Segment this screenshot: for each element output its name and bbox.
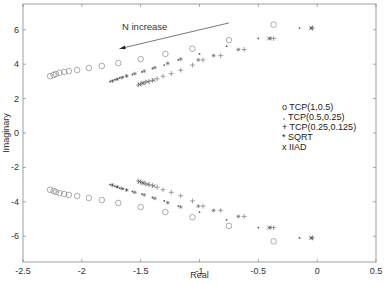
y-tick-label: 6 bbox=[14, 25, 19, 35]
x-tick-label: -2.5 bbox=[15, 266, 31, 276]
x-tick-label: -1.5 bbox=[133, 266, 149, 276]
annotation-text: N increase bbox=[122, 21, 167, 32]
y-tick-label: 0 bbox=[14, 128, 19, 138]
x-tick-label: 0 bbox=[315, 266, 320, 276]
n-increase-annotation: N increase bbox=[119, 21, 228, 49]
plot-frame bbox=[23, 4, 376, 262]
series-tcp-1-0-5- bbox=[47, 22, 276, 244]
axes: -2.5-2-1.5-1-0.500.5-6-4-20246 bbox=[11, 4, 382, 276]
y-tick-label: -6 bbox=[11, 231, 19, 241]
legend-item: TCP(0.5,0.25) bbox=[288, 112, 345, 122]
series-layer bbox=[47, 22, 315, 244]
x-tick-label: -0.5 bbox=[251, 266, 267, 276]
legend-item: * SQRT bbox=[282, 132, 313, 142]
pole-plot: -2.5-2-1.5-1-0.500.5-6-4-20246 N increas… bbox=[0, 0, 384, 284]
legend: o TCP(1,0.5)TCP(0.5,0.25)+ TCP(0.25,0.12… bbox=[282, 102, 356, 152]
legend-item: x IIAD bbox=[282, 142, 307, 152]
x-tick-label: 0.5 bbox=[370, 266, 383, 276]
x-axis-label: Real bbox=[190, 270, 209, 280]
legend-item: o TCP(1,0.5) bbox=[282, 102, 333, 112]
x-tick-label: -2 bbox=[78, 266, 86, 276]
y-tick-label: 4 bbox=[14, 59, 19, 69]
y-tick-label: -4 bbox=[11, 197, 19, 207]
legend-item: + TCP(0.25,0.125) bbox=[282, 122, 356, 132]
y-tick-label: -2 bbox=[11, 162, 19, 172]
y-axis-label: Imaginary bbox=[1, 113, 11, 153]
y-tick-label: 2 bbox=[14, 94, 19, 104]
arrow-head-icon bbox=[119, 45, 125, 49]
